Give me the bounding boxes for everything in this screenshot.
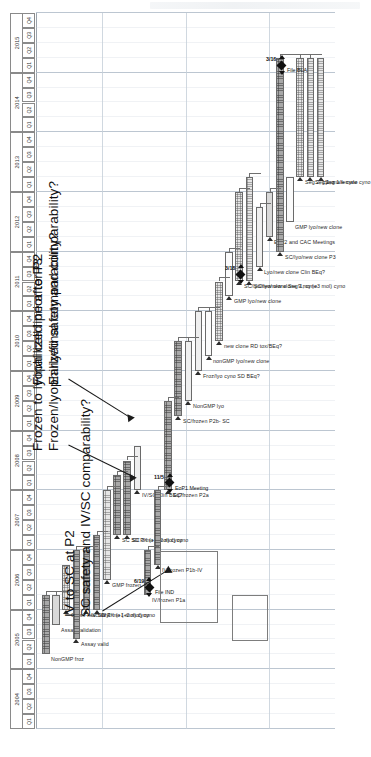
task-bar[interactable] bbox=[225, 252, 233, 297]
rotated-canvas: 2004Q1Q2Q3Q42005Q1Q2Q3Q42006Q1Q2Q3Q42007… bbox=[0, 0, 345, 737]
axis-quarter-2004-Q4: Q4 bbox=[22, 669, 35, 684]
connector bbox=[239, 189, 240, 192]
connector-arrow bbox=[246, 282, 252, 286]
milestone-date: 3/16 bbox=[266, 56, 276, 62]
axis-quarter-2007-Q2: Q2 bbox=[22, 520, 35, 535]
axis-year-2012: 2012 bbox=[10, 192, 22, 252]
connector-arrow bbox=[307, 177, 313, 181]
task-bar[interactable] bbox=[113, 475, 121, 535]
annotation-cell-line-line1: Final cell line after P2 bbox=[30, 232, 46, 385]
connector bbox=[107, 487, 108, 490]
task-label: Seg 1 female cyno bbox=[325, 179, 371, 185]
annotation-iv-sc: IV to SC at P2 SC safety and IV/SC compa… bbox=[62, 399, 94, 617]
task-bar[interactable] bbox=[276, 58, 284, 252]
task-bar[interactable] bbox=[195, 311, 203, 371]
axis-quarter-2013-Q3: Q3 bbox=[22, 147, 35, 162]
task-label: SC/frozen P2a bbox=[173, 492, 209, 498]
axis-year-2010: 2010 bbox=[10, 311, 22, 371]
milestone-label: EoP1 Meeting bbox=[175, 485, 208, 491]
annotation-iv-sc-line2: SC safety and IV/SC comparability? bbox=[78, 399, 94, 617]
annotation-cell-line: Final cell line after P2 Early/final com… bbox=[30, 232, 62, 385]
task-label: GMP lyo/new clone bbox=[234, 298, 281, 304]
task-bar[interactable] bbox=[317, 58, 325, 177]
group-outline-p1 bbox=[160, 551, 218, 623]
milestone-date: 3/18 bbox=[225, 265, 235, 271]
task-bar[interactable] bbox=[235, 192, 243, 282]
axis-quarter-2015-Q3: Q3 bbox=[22, 28, 35, 43]
task-bar[interactable] bbox=[266, 192, 274, 237]
connector bbox=[178, 338, 179, 341]
axis-quarter-2014-Q2: Q2 bbox=[22, 103, 35, 118]
axis-quarter-2005-Q2: Q2 bbox=[22, 640, 35, 655]
connector-arrow bbox=[175, 416, 181, 420]
axis-year-2006: 2006 bbox=[10, 550, 22, 610]
connector bbox=[239, 188, 249, 189]
connector bbox=[300, 54, 310, 55]
task-bar[interactable] bbox=[185, 341, 193, 401]
axis-year-2013: 2013 bbox=[10, 132, 22, 192]
task-bar[interactable] bbox=[52, 595, 60, 625]
connector-arrow bbox=[94, 610, 100, 614]
milestone-label: File BLA bbox=[287, 67, 307, 73]
connector bbox=[249, 188, 250, 189]
connector bbox=[127, 457, 137, 458]
task-label: NonGMP lyo bbox=[193, 403, 224, 409]
connector-arrow bbox=[216, 341, 222, 345]
connector-arrow bbox=[104, 580, 110, 584]
task-bar[interactable] bbox=[307, 58, 315, 177]
connector bbox=[198, 307, 208, 308]
task-bar[interactable] bbox=[286, 177, 294, 222]
axis-quarter-2014-Q1: Q1 bbox=[22, 117, 35, 132]
axis-quarter-2005-Q1: Q1 bbox=[22, 654, 35, 669]
connector-arrow bbox=[134, 490, 140, 494]
task-bar[interactable] bbox=[134, 446, 142, 491]
task-label: SC/lyo/new clone 9 mo (+3 mol) cyno bbox=[254, 284, 345, 290]
task-label: IV 1 mo (+2 mol) cyno bbox=[101, 612, 155, 618]
task-label: SC/lyo/new clone P3 bbox=[285, 254, 336, 260]
task-bar[interactable] bbox=[205, 311, 213, 356]
connector bbox=[107, 531, 108, 532]
axis-year-2014: 2014 bbox=[10, 73, 22, 133]
connector bbox=[198, 308, 199, 311]
connector bbox=[46, 592, 47, 595]
axis-year-2004: 2004 bbox=[10, 669, 22, 729]
axis-quarter-2007-Q4: Q4 bbox=[22, 490, 35, 505]
connector bbox=[158, 487, 159, 490]
connector bbox=[178, 397, 179, 398]
connector bbox=[219, 278, 229, 279]
task-bar[interactable] bbox=[246, 177, 254, 281]
connector bbox=[117, 486, 118, 487]
axis-year-2008: 2008 bbox=[10, 431, 22, 491]
connector bbox=[148, 547, 149, 550]
connector bbox=[209, 308, 210, 311]
axis-quarter-2008-Q2: Q2 bbox=[22, 461, 35, 476]
task-label: Lyo/new clone Clin BEq? bbox=[264, 269, 325, 275]
connector-arrow bbox=[226, 296, 232, 300]
connector bbox=[117, 472, 118, 475]
axis-quarter-2013-Q4: Q4 bbox=[22, 132, 35, 147]
task-label: Froz/lyo cyno SD BEq? bbox=[203, 373, 260, 379]
connector bbox=[107, 486, 117, 487]
milestone-arrow-left bbox=[167, 489, 173, 493]
task-bar[interactable] bbox=[174, 341, 182, 416]
task-bar[interactable] bbox=[296, 58, 304, 177]
connector-arrow bbox=[185, 401, 191, 405]
connector bbox=[260, 203, 270, 204]
milestone-date: 11/5 bbox=[154, 474, 164, 480]
task-bar[interactable] bbox=[215, 282, 223, 342]
connector bbox=[168, 397, 178, 398]
task-bar[interactable] bbox=[103, 490, 111, 580]
connector bbox=[97, 532, 98, 535]
task-label: new clone RD tox/BEq? bbox=[224, 343, 282, 349]
task-bar[interactable] bbox=[42, 595, 50, 655]
connector bbox=[280, 188, 281, 189]
milestone-date: 6/19 bbox=[134, 578, 144, 584]
axis-year-2007: 2007 bbox=[10, 490, 22, 550]
row-separator bbox=[269, 13, 270, 729]
task-bar[interactable] bbox=[164, 401, 172, 491]
axis-quarter-2006-Q4: Q4 bbox=[22, 550, 35, 565]
milestone-arrow-right bbox=[238, 264, 244, 268]
task-bar[interactable] bbox=[256, 207, 264, 267]
connector bbox=[158, 486, 168, 487]
